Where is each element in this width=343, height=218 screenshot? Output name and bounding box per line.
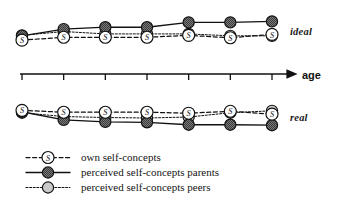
legend-label-own: own self-concepts: [74, 151, 161, 164]
marker-letter-s: S: [103, 33, 107, 42]
panel-label-real: real: [290, 112, 308, 123]
panel-ideal: SSSSSSS: [16, 16, 278, 46]
marker-letter-s: S: [187, 109, 191, 118]
marker-letter-s: S: [62, 33, 66, 42]
marker-letter-s: S: [103, 108, 107, 117]
legend-item-own: S own self-concepts: [24, 150, 324, 165]
marker-letter-s: S: [145, 33, 149, 42]
legend-item-peers: perceived self-concepts peers: [24, 180, 324, 195]
marker-letter-s: S: [62, 108, 66, 117]
data-point-marker: [183, 119, 194, 130]
marker-letter-s: S: [270, 31, 274, 40]
chart-legend: S own self-concepts perceived self-conce…: [24, 150, 324, 195]
legend-marker-letter-s: S: [46, 154, 50, 163]
marker-letter-s: S: [270, 110, 274, 119]
legend-key-peers-icon: [24, 180, 74, 195]
data-point-marker: [225, 119, 236, 130]
legend-marker: [42, 167, 53, 178]
legend-marker: [42, 182, 53, 193]
marker-letter-s: S: [145, 108, 149, 117]
self-concept-line-chart-figure: SSSSSSS SSSSSSS ideal real age S own sel…: [0, 0, 343, 218]
marker-letter-s: S: [228, 107, 232, 116]
legend-key-parents-icon: [24, 165, 74, 180]
data-point-marker: [266, 16, 277, 27]
legend-key-own-icon: S: [24, 150, 74, 165]
marker-letter-s: S: [228, 34, 232, 43]
panel-label-ideal: ideal: [290, 26, 312, 37]
marker-letter-s: S: [187, 31, 191, 40]
age-axis: [20, 74, 288, 80]
legend-item-parents: perceived self-concepts parents: [24, 165, 324, 180]
data-point-marker: [266, 120, 277, 131]
axis-label-age: age: [302, 69, 321, 81]
data-point-marker: [225, 17, 236, 28]
marker-letter-s: S: [20, 36, 24, 45]
panel-real: SSSSSSS: [16, 104, 278, 130]
data-point-marker: [183, 17, 194, 28]
marker-letter-s: S: [20, 106, 24, 115]
legend-label-peers: perceived self-concepts peers: [74, 181, 211, 194]
legend-label-parents: perceived self-concepts parents: [74, 166, 219, 179]
